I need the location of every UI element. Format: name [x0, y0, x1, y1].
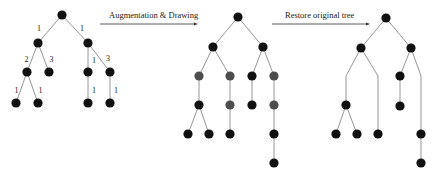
- tree-edge: [213, 47, 230, 76]
- tree-edge: [346, 105, 357, 134]
- tree-node: [416, 158, 425, 167]
- tree-node: [258, 42, 267, 51]
- tree-node: [105, 67, 114, 76]
- tree-node: [395, 101, 404, 110]
- tree-augmentation-diagram: Augmentation & Drawing Restore original …: [0, 0, 438, 174]
- edge-weight-label: 1: [114, 86, 118, 95]
- original-tree: 1123131111: [11, 10, 118, 107]
- tree-edge: [411, 48, 421, 134]
- tree-node: [204, 129, 213, 138]
- tree-edge: [213, 17, 238, 47]
- augmented-node: [225, 100, 234, 109]
- tree-node: [381, 13, 390, 22]
- tree-edge: [188, 105, 199, 134]
- tree-node: [247, 71, 256, 80]
- edge-weight-label: 3: [106, 54, 110, 63]
- tree-node: [83, 98, 92, 107]
- tree-edge: [361, 18, 386, 48]
- augmented-node: [225, 71, 234, 80]
- tree-node: [83, 38, 92, 47]
- tree-node: [194, 100, 203, 109]
- arrow-label-restore: Restore original tree: [285, 10, 355, 20]
- tree-node: [83, 67, 92, 76]
- tree-node: [233, 12, 242, 21]
- tree-edge: [386, 18, 411, 48]
- edge-weight-label: 1: [37, 24, 41, 33]
- tree-node: [416, 129, 425, 138]
- tree-node: [225, 129, 234, 138]
- tree-node: [208, 42, 217, 51]
- tree-edge: [27, 72, 38, 103]
- tree-node: [269, 158, 278, 167]
- tree-node: [33, 98, 42, 107]
- arrow-augmentation: Augmentation & Drawing: [100, 10, 199, 26]
- augmented-node: [269, 71, 278, 80]
- tree-node: [341, 100, 350, 109]
- tree-edge: [62, 15, 88, 43]
- augmented-tree: [183, 12, 278, 167]
- tree-edge: [263, 47, 274, 76]
- edge-weight-label: 1: [92, 86, 96, 95]
- tree-edge: [238, 17, 263, 47]
- edge-weight-label: 1: [92, 56, 96, 65]
- tree-edge: [252, 47, 263, 76]
- tree-edge: [361, 48, 378, 134]
- tree-node: [395, 71, 404, 80]
- restored-tree: [331, 13, 425, 167]
- tree-node: [331, 129, 340, 138]
- tree-edge: [38, 43, 49, 72]
- arrow-restore: Restore original tree: [272, 10, 370, 26]
- tree-edge: [336, 105, 346, 134]
- tree-node: [11, 98, 20, 107]
- tree-edge: [346, 48, 361, 105]
- tree-edge: [27, 43, 38, 72]
- edge-weight-label: 2: [25, 55, 29, 64]
- tree-edge: [199, 105, 209, 134]
- tree-node: [22, 67, 31, 76]
- tree-node: [356, 43, 365, 52]
- tree-node: [247, 100, 256, 109]
- tree-node: [33, 38, 42, 47]
- tree-node: [44, 67, 53, 76]
- tree-node: [57, 10, 66, 19]
- arrow-label-augmentation: Augmentation & Drawing: [109, 10, 199, 20]
- tree-node: [183, 129, 192, 138]
- tree-node: [406, 43, 415, 52]
- tree-node: [105, 98, 114, 107]
- edge-weight-label: 3: [50, 55, 54, 64]
- edge-weight-label: 1: [15, 86, 19, 95]
- tree-node: [352, 129, 361, 138]
- augmented-node: [194, 71, 203, 80]
- tree-node: [373, 129, 382, 138]
- tree-edge: [199, 47, 213, 76]
- augmented-node: [269, 100, 278, 109]
- edge-weight-label: 1: [80, 24, 84, 33]
- edge-weight-label: 1: [39, 86, 43, 95]
- tree-node: [269, 129, 278, 138]
- tree-edge: [38, 15, 62, 43]
